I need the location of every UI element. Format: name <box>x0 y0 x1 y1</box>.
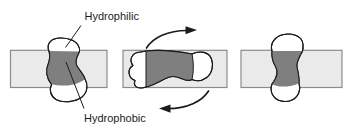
hydrophilic-label: Hydrophilic <box>85 10 140 22</box>
membrane-protein-rotation-diagram: Hydrophilic Hydrophobic <box>0 0 352 131</box>
rotation-arrow-bottom-curve <box>168 91 209 109</box>
rotation-arrow-top-icon <box>147 26 198 48</box>
rotation-arrow-top-curve <box>147 31 188 49</box>
rotation-arrow-bottom-head <box>159 104 171 112</box>
hydrophobic-label: Hydrophobic <box>84 112 146 124</box>
rotation-arrow-top-head <box>186 26 198 34</box>
rotation-arrow-bottom-icon <box>159 91 209 113</box>
